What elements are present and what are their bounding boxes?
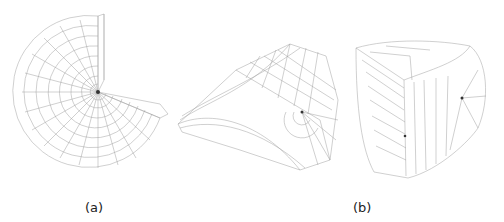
center-node-b1 [301, 111, 304, 114]
center-node-b2 [461, 97, 464, 100]
figure-canvas [0, 0, 504, 222]
center-node-b3 [404, 135, 407, 138]
mesh-b-left [178, 44, 338, 170]
center-node-a [96, 90, 100, 94]
mesh-a [13, 14, 168, 168]
mesh-b-right [356, 41, 486, 178]
panel-label-b: (b) [353, 200, 371, 215]
panel-label-a: (a) [85, 200, 103, 215]
